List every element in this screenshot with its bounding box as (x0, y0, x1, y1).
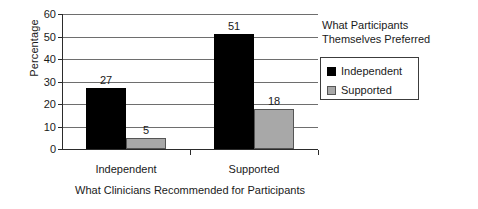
y-tick-mark (58, 127, 63, 128)
y-tick-label: 0 (50, 144, 56, 155)
y-tick-mark (58, 149, 63, 150)
x-tick-mark (190, 150, 191, 155)
y-tick-label: 20 (44, 99, 56, 110)
x-tick-mark (318, 150, 319, 155)
x-axis-title: What Clinicians Recommended for Particip… (0, 184, 380, 196)
legend-title-line-1: What Participants (322, 18, 472, 32)
y-tick-mark (58, 104, 63, 105)
bar-supported-supported (254, 109, 294, 150)
y-tick-label: 50 (44, 31, 56, 42)
x-category-label: Independent (95, 164, 156, 175)
y-tick-label: 30 (44, 76, 56, 87)
y-tick-label: 60 (44, 9, 56, 20)
y-tick-mark (58, 37, 63, 38)
legend-item-supported: Supported (327, 85, 392, 96)
bar-value-label: 51 (228, 21, 240, 32)
bar-supported-independent (214, 34, 254, 149)
y-axis-title: Percentage (28, 0, 40, 108)
x-category-label: Supported (229, 164, 280, 175)
bar-independent-supported (126, 138, 166, 149)
legend-item-label: Supported (341, 85, 392, 96)
y-tick-mark (58, 14, 63, 15)
legend-box: IndependentSupported (320, 57, 419, 100)
y-tick-label: 40 (44, 54, 56, 65)
bar-independent-independent (86, 88, 126, 149)
legend-title-line-2: Themselves Preferred (322, 32, 472, 46)
legend-item-label: Independent (341, 66, 402, 77)
gridline (62, 59, 318, 60)
bar-value-label: 18 (268, 96, 280, 107)
plot-area: 0102030405060 2755118 IndependentSupport… (62, 14, 318, 150)
bar-value-label: 27 (100, 75, 112, 86)
legend-swatch-icon (327, 86, 336, 95)
y-tick-label: 10 (44, 121, 56, 132)
y-tick-mark (58, 82, 63, 83)
legend-swatch-icon (327, 67, 336, 76)
legend-item-independent: Independent (327, 66, 402, 77)
y-tick-mark (58, 59, 63, 60)
gridline (62, 14, 318, 15)
legend-title: What Participants Themselves Preferred (322, 18, 472, 46)
bar-value-label: 5 (143, 125, 149, 136)
gridline (62, 37, 318, 38)
bar-chart-figure: Percentage 0102030405060 2755118 Indepen… (0, 0, 478, 209)
